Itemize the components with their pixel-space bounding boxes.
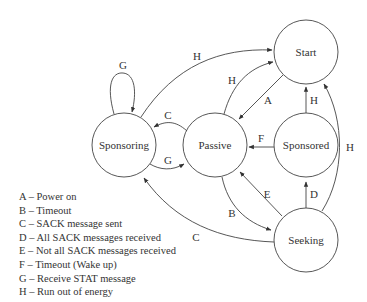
edge-label-c-seeking-sponsoring: C: [192, 231, 199, 243]
edge-label-h-seeking-start: H: [346, 141, 354, 153]
legend: A – Power on B – Timeout C – SACK messag…: [19, 190, 176, 299]
legend-item-f: F – Timeout (Wake up): [19, 258, 176, 272]
edge-g-self: [110, 73, 134, 114]
edge-label-e: E: [264, 188, 271, 200]
edge-h-passive-start: [224, 62, 273, 114]
edge-label-h-sponsored-start: H: [310, 94, 318, 106]
edge-e-seeking-passive: [240, 172, 282, 216]
edge-c-passive-sponsoring: [154, 123, 187, 131]
edge-label-b: B: [228, 207, 235, 219]
edge-label-c-passive-sponsoring: C: [164, 109, 171, 121]
edge-label-g-sponsoring-passive: G: [164, 154, 172, 166]
edge-label-h-sponsoring-start: H: [193, 50, 201, 62]
edge-label-h-passive-start: H: [228, 74, 236, 86]
legend-item-h: H – Run out of energy: [19, 285, 176, 299]
state-label-sponsoring: Sponsoring: [99, 139, 150, 151]
state-label-start: Start: [296, 46, 317, 58]
legend-item-b: B – Timeout: [19, 204, 176, 218]
edge-label-g-self: G: [119, 59, 127, 71]
edge-label-a: A: [264, 94, 272, 106]
state-label-seeking: Seeking: [288, 234, 324, 246]
legend-item-g: G – Receive STAT message: [19, 272, 176, 286]
state-label-sponsored: Sponsored: [283, 139, 330, 151]
legend-item-c: C – SACK message sent: [19, 217, 176, 231]
state-label-passive: Passive: [199, 139, 232, 151]
edge-label-d: D: [310, 188, 318, 200]
legend-item-a: A – Power on: [19, 190, 176, 204]
edge-label-f: F: [258, 132, 264, 144]
edge-h-sponsoring-start: [141, 50, 272, 117]
edge-b-passive-seeking: [222, 177, 271, 230]
edge-a-start-passive: [239, 75, 283, 119]
legend-item-e: E – Not all SACK messages received: [19, 244, 176, 258]
legend-item-d: D – All SACK messages received: [19, 231, 176, 245]
